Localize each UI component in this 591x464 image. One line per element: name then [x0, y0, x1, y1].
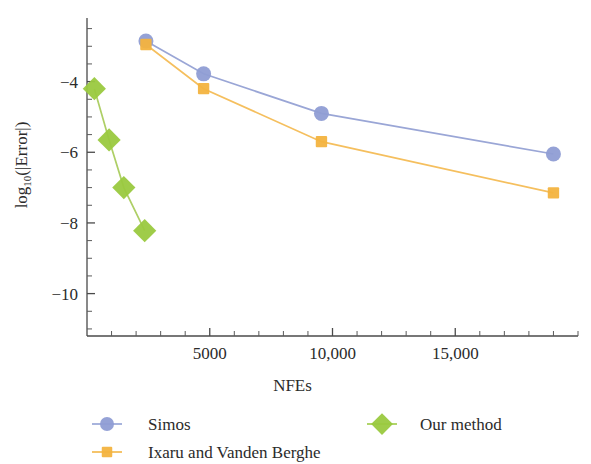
- chart-canvas: 500010,00015,000−4−6−8−10NFEslog10(|Erro…: [0, 0, 591, 464]
- legend-label-2: Our method: [420, 415, 502, 434]
- data-point-diamond[interactable]: [112, 176, 135, 199]
- y-tick-label: −6: [60, 143, 78, 162]
- data-point-square[interactable]: [548, 187, 559, 198]
- x-tick-label: 15,000: [432, 344, 479, 363]
- data-point-circle[interactable]: [546, 147, 561, 162]
- data-point-diamond[interactable]: [97, 128, 120, 151]
- legend-label-0: Simos: [148, 415, 191, 434]
- data-point-diamond[interactable]: [133, 219, 156, 242]
- series-line-diamond: [94, 89, 144, 231]
- data-point-circle[interactable]: [196, 66, 211, 81]
- x-tick-label: 5000: [193, 344, 227, 363]
- y-tick-label: −10: [51, 285, 78, 304]
- legend-marker-1[interactable]: [102, 447, 113, 458]
- y-tick-label: −4: [60, 73, 79, 92]
- data-point-square[interactable]: [140, 39, 151, 50]
- x-axis-title: NFEs: [273, 376, 312, 395]
- y-axis-title: log10(|Error|): [12, 122, 33, 209]
- data-point-square[interactable]: [198, 83, 209, 94]
- y-tick-label: −8: [60, 214, 78, 233]
- legend-marker-0[interactable]: [100, 417, 114, 431]
- data-point-square[interactable]: [316, 136, 327, 147]
- legend-label-1: Ixaru and Vanden Berghe: [148, 443, 321, 462]
- data-point-circle[interactable]: [314, 106, 329, 121]
- series-line-circle: [146, 41, 554, 154]
- figure-container: 500010,00015,000−4−6−8−10NFEslog10(|Erro…: [0, 0, 591, 464]
- x-tick-label: 10,000: [309, 344, 356, 363]
- data-point-diamond[interactable]: [83, 77, 106, 100]
- legend-marker-2[interactable]: [371, 413, 393, 435]
